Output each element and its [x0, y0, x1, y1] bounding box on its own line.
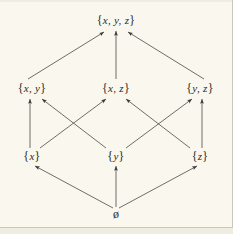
node-xz-close-brace: }	[124, 81, 130, 95]
node-xyz-close-brace: }	[129, 13, 135, 27]
edge-xy-to-xyz	[28, 32, 104, 79]
node-yz[interactable]: {y, z}	[186, 81, 213, 96]
node-xy-elements: x, y	[24, 82, 40, 94]
edge-yz-to-xyz	[128, 32, 204, 79]
node-xz-elements: x, z	[108, 82, 124, 94]
hasse-diagram-edges	[0, 0, 233, 234]
node-y[interactable]: {y}	[107, 149, 124, 164]
edge-empty-set-to-z	[119, 166, 197, 208]
node-xyz[interactable]: {x, y, z}	[97, 13, 136, 28]
node-z[interactable]: {z}	[192, 149, 209, 164]
node-yz-elements: y, z	[192, 82, 207, 94]
node-y-close-brace: }	[119, 149, 125, 163]
node-xz[interactable]: {x, z}	[102, 81, 130, 96]
node-empty-set[interactable]: ø	[113, 208, 119, 220]
figure-page: {x, y, z} {x, y} {x, z} {y, z} {x} {y} {…	[0, 0, 233, 234]
node-x[interactable]: {x}	[23, 149, 40, 164]
node-x-close-brace: }	[35, 149, 41, 163]
node-z-close-brace: }	[202, 149, 208, 163]
node-yz-close-brace: }	[208, 81, 214, 95]
node-xy-close-brace: }	[40, 81, 46, 95]
node-xy[interactable]: {x, y}	[18, 81, 47, 96]
edge-empty-set-to-x	[35, 166, 113, 208]
node-xyz-elements: x, y, z	[103, 14, 130, 26]
